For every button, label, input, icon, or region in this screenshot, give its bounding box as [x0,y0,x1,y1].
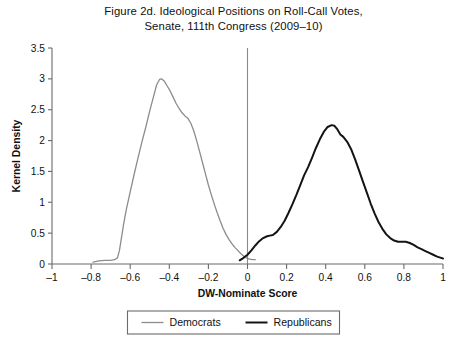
series-line-republicans [240,125,443,260]
x-tick-label: –0.4 [159,272,179,283]
y-axis-title: Kernel Density [11,119,22,192]
y-tick-label: 1.5 [31,166,45,177]
y-tick-label: 1 [39,197,45,208]
legend-label-republicans: Republicans [274,316,332,328]
y-tick-label: 2.5 [31,104,45,115]
figure-container: Figure 2d. Ideological Positions on Roll… [0,0,467,349]
x-tick-label: 0.2 [280,272,294,283]
x-tick-label: –0.2 [198,272,218,283]
series-group [93,79,443,262]
y-axis-group: 00.511.522.533.5 [31,43,52,270]
chart-legend: DemocratsRepublicans [128,311,340,334]
x-tick-label: 0.8 [397,272,411,283]
series-line-democrats [93,79,255,262]
x-tick-label: 0 [245,272,251,283]
x-tick-label: –0.8 [81,272,101,283]
x-tick-label: –0.6 [120,272,140,283]
x-axis-group: –1–0.8–0.6–0.4–0.200.20.40.60.81 [46,264,446,283]
y-tick-label: 0.5 [31,228,45,239]
y-tick-label: 3 [39,73,45,84]
x-axis-title: DW-Nominate Score [198,288,298,299]
x-tick-label: –1 [46,272,58,283]
y-tick-label: 0 [39,259,45,270]
x-tick-label: 0.6 [358,272,372,283]
legend-label-democrats: Democrats [170,316,221,328]
y-tick-label: 3.5 [31,43,45,54]
x-tick-label: 1 [440,272,446,283]
x-tick-label: 0.4 [319,272,333,283]
y-tick-label: 2 [39,135,45,146]
kernel-density-chart: 00.511.522.533.5 –1–0.8–0.6–0.4–0.200.20… [0,0,467,349]
